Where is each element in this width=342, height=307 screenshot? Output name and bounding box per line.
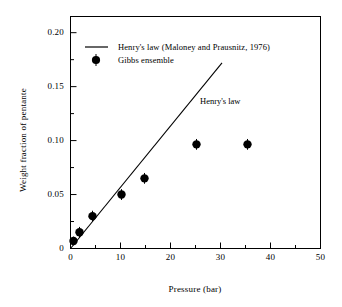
data-point-marker — [88, 212, 96, 220]
x-tick-label: 10 — [106, 252, 136, 262]
y-axis-major-ticks — [71, 33, 77, 249]
x-tick-label: 30 — [206, 252, 236, 262]
y-tick-label: 0 — [30, 243, 64, 253]
y-tick-label: 0.05 — [30, 189, 64, 199]
annotation-henrys-law: Henry's law — [200, 96, 240, 106]
x-tick-label: 20 — [156, 252, 186, 262]
data-point-marker — [117, 190, 125, 198]
x-tick-label: 40 — [256, 252, 286, 262]
series-gibbs-ensemble-points — [69, 139, 251, 245]
y-tick-label: 0.20 — [30, 27, 64, 37]
legend-marker-swatch — [92, 54, 100, 66]
legend-item-henrys-law-label: Henry's law (Maloney and Prausnitz, 1976… — [118, 42, 270, 52]
data-point-marker — [243, 140, 251, 148]
data-point-marker — [192, 140, 200, 148]
chart-figure: Weight fraction of pentante Pressure (ba… — [0, 0, 342, 307]
y-tick-label: 0.15 — [30, 81, 64, 91]
y-tick-label: 0.10 — [30, 135, 64, 145]
x-tick-label: 0 — [56, 252, 86, 262]
x-tick-label: 50 — [306, 252, 336, 262]
data-point-marker — [69, 237, 77, 245]
legend-item-gibbs-ensemble-label: Gibbs ensemble — [118, 55, 174, 65]
y-axis-title: Weight fraction of pentante — [18, 70, 28, 210]
henrys-law-line — [71, 63, 223, 249]
x-axis-title: Pressure (bar) — [130, 284, 260, 294]
x-axis-minor-ticks — [96, 245, 296, 249]
data-point-marker — [75, 228, 83, 236]
data-point-marker — [140, 174, 148, 182]
series-henrys-law-line — [71, 63, 223, 249]
